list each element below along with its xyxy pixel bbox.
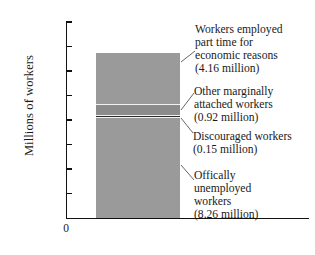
leader-line-unemployed bbox=[181, 165, 194, 180]
callout-part-time: Workers employed part time for economic … bbox=[195, 24, 283, 76]
callout-part-time-line3: economic reasons bbox=[195, 50, 283, 63]
stacked-bar-chart: Millions of workers 161412108642 0 Worke… bbox=[0, 0, 315, 255]
bar-segment-separator bbox=[96, 115, 180, 116]
callout-marginally-attached-line1: Other marginally bbox=[194, 86, 273, 99]
callout-unemployed: Offically unemployed workers (8.26 milli… bbox=[194, 170, 258, 222]
y-axis-tick-8 bbox=[66, 119, 72, 120]
bar-segment-separator bbox=[96, 117, 180, 118]
callout-discouraged-line2: (0.15 million) bbox=[193, 144, 292, 157]
callout-marginally-attached-line3: (0.92 million) bbox=[194, 112, 273, 125]
callout-unemployed-line1: Offically bbox=[194, 170, 258, 183]
bar-segment-other-marginally-attached-workers bbox=[96, 104, 180, 115]
callout-unemployed-line3: workers bbox=[194, 196, 258, 209]
y-axis-tick-2 bbox=[66, 193, 72, 194]
callout-part-time-line4: (4.16 million) bbox=[195, 63, 283, 76]
y-axis-tick-16 bbox=[66, 21, 72, 22]
y-axis-tick-14 bbox=[66, 46, 72, 47]
y-axis-tick-4 bbox=[66, 168, 72, 169]
y-axis-tick-12 bbox=[66, 70, 72, 71]
stacked-bar bbox=[96, 53, 180, 218]
leader-line-discouraged bbox=[181, 118, 193, 133]
y-axis-tick-label-0: 0 bbox=[56, 222, 76, 234]
callout-unemployed-line4: (8.26 million) bbox=[194, 209, 258, 222]
bar-segment-workers-employed-part-time-for-economic-reasons bbox=[96, 53, 180, 104]
callout-part-time-line1: Workers employed bbox=[195, 24, 283, 37]
y-axis-tick-6 bbox=[66, 144, 72, 145]
callout-discouraged: Discouraged workers (0.15 million) bbox=[193, 131, 292, 157]
bar-segment-separator bbox=[96, 104, 180, 105]
bar-segment-offically-unemployed-workers bbox=[96, 117, 180, 218]
callout-unemployed-line2: unemployed bbox=[194, 183, 258, 196]
y-axis-tick-10 bbox=[66, 95, 72, 96]
leader-line-marginally-attached bbox=[181, 93, 194, 110]
leader-line-part-time bbox=[181, 51, 195, 62]
callout-marginally-attached: Other marginally attached workers (0.92 … bbox=[194, 86, 273, 125]
callout-marginally-attached-line2: attached workers bbox=[194, 99, 273, 112]
callout-discouraged-line1: Discouraged workers bbox=[193, 131, 292, 144]
x-axis-line bbox=[66, 218, 309, 219]
callout-part-time-line2: part time for bbox=[195, 37, 283, 50]
y-axis-title: Millions of workers bbox=[22, 31, 37, 181]
